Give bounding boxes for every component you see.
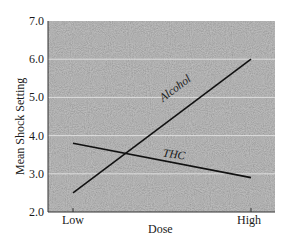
x-axis-label: Dose bbox=[148, 222, 173, 237]
y-tick-label: 6.0 bbox=[4, 53, 44, 65]
stipple-texture bbox=[48, 21, 275, 212]
x-tick-label: High bbox=[237, 214, 261, 226]
y-axis-label: Mean Shock Setting bbox=[13, 78, 28, 175]
y-tick-label: 2.0 bbox=[4, 206, 44, 218]
interaction-line-chart: 2.03.04.05.06.07.0 LowHigh Mean Shock Se… bbox=[0, 0, 288, 242]
x-tick-label: Low bbox=[62, 214, 84, 226]
y-tick-label: 7.0 bbox=[4, 15, 44, 27]
